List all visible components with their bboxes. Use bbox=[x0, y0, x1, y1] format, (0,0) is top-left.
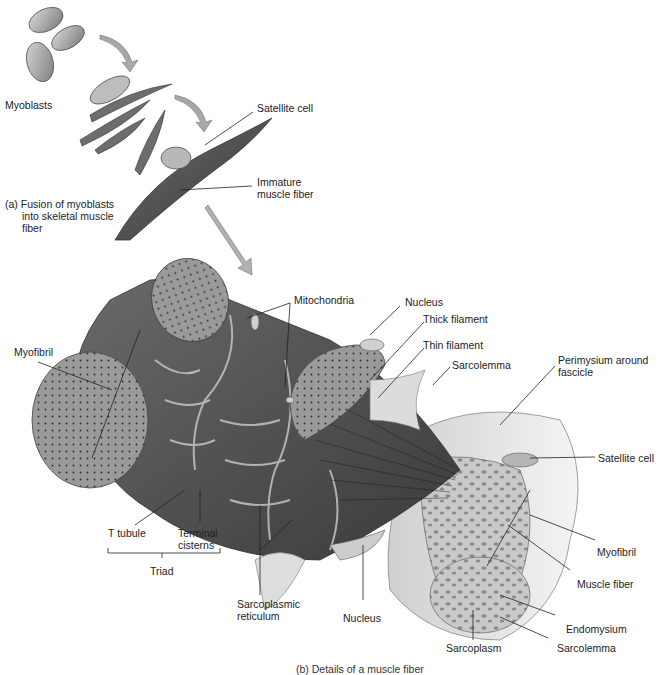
fusing-myoblasts bbox=[80, 70, 172, 175]
label-t-tubule: T tubule bbox=[108, 527, 146, 539]
label-sarcolemma-bottom: Sarcolemma bbox=[557, 642, 616, 654]
label-satellite-cell-a: Satellite cell bbox=[257, 102, 313, 114]
label-myofibril-right: Myofibril bbox=[597, 546, 636, 558]
label-myoblasts: Myoblasts bbox=[5, 99, 52, 111]
label-terminal-line2: cisterns bbox=[178, 539, 214, 551]
caption-b: (b) Details of a muscle fiber bbox=[296, 663, 424, 675]
label-triad: Triad bbox=[150, 565, 174, 577]
immature-muscle-fiber bbox=[115, 118, 272, 240]
caption-a-line3: fiber bbox=[22, 222, 42, 234]
label-perimysium-line1: Perimysium around bbox=[558, 354, 648, 366]
label-sarcoplasmic-line2: reticulum bbox=[237, 610, 280, 622]
caption-a-line1: (a) Fusion of myoblasts bbox=[5, 198, 114, 210]
myofibril-cross-section-left bbox=[32, 352, 148, 488]
zoom-arrow-icon bbox=[205, 205, 252, 275]
caption-a-line2: into skeletal muscle bbox=[22, 210, 114, 222]
label-immature-fiber-line1: Immature bbox=[257, 176, 301, 188]
label-nucleus-top: Nucleus bbox=[405, 296, 443, 308]
label-thin-filament: Thin filament bbox=[423, 339, 483, 351]
label-satellite-cell-b: Satellite cell bbox=[598, 452, 654, 464]
myoblast-cells bbox=[22, 2, 88, 84]
label-muscle-fiber: Muscle fiber bbox=[577, 578, 634, 590]
label-nucleus-bottom: Nucleus bbox=[343, 612, 381, 624]
label-sarcoplasmic-line1: Sarcoplasmic bbox=[237, 598, 300, 610]
label-thick-filament: Thick filament bbox=[423, 313, 488, 325]
label-perimysium-line2: fascicle bbox=[558, 366, 593, 378]
label-sarcolemma-top: Sarcolemma bbox=[452, 359, 511, 371]
label-endomysium: Endomysium bbox=[566, 623, 627, 635]
label-immature-fiber-line2: muscle fiber bbox=[257, 188, 314, 200]
label-mitochondria: Mitochondria bbox=[294, 294, 354, 306]
label-myofibril-left: Myofibril bbox=[14, 346, 53, 358]
label-sarcoplasm: Sarcoplasm bbox=[446, 642, 501, 654]
label-terminal-line1: Terminal bbox=[178, 527, 218, 539]
